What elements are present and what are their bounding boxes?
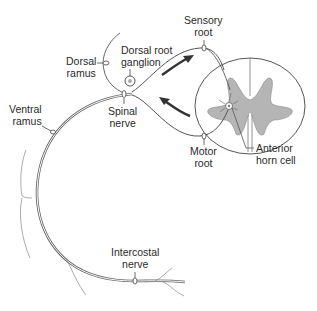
label-ventral-ramus: Ventral ramus (9, 103, 42, 127)
label-intercostal-nerve: Intercostal nerve (111, 246, 159, 270)
label-spinal-nerve: Spinal nerve (108, 105, 137, 129)
spinal-cord-cross-section (195, 48, 305, 154)
label-motor-root: Motor root (190, 145, 217, 169)
label-dorsal-ramus: Dorsal ramus (66, 55, 96, 79)
label-anterior-horn-cell: Anterior horn cell (256, 142, 296, 166)
dorsal-ramus (97, 33, 124, 93)
label-sensory-root: Sensory root (184, 14, 223, 38)
lateral-branches (20, 150, 32, 258)
label-dorsal-root-ganglion: Dorsal root ganglion (121, 44, 172, 68)
